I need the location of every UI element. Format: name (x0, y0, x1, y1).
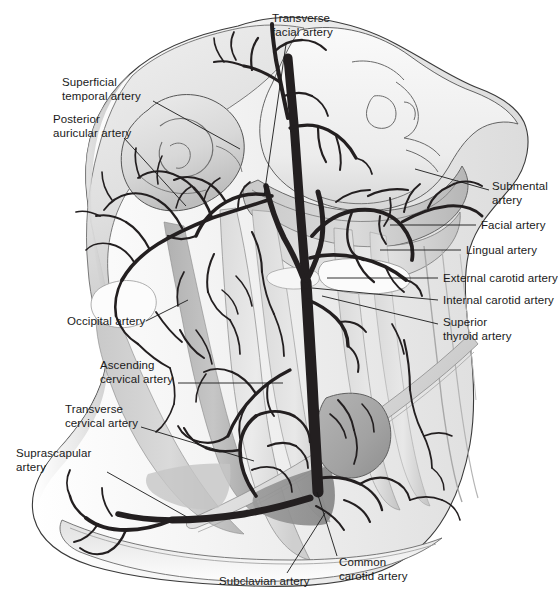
label-transverse-facial-artery: Transverse facial artery (272, 12, 333, 39)
label-submental-artery: Submental artery (492, 180, 548, 207)
label-lingual-artery: Lingual artery (466, 244, 537, 258)
thyroid-gland (316, 393, 391, 478)
label-external-carotid-artery: External carotid artery (443, 272, 558, 286)
label-internal-carotid-artery: Internal carotid artery (443, 294, 554, 308)
label-superior-thyroid-artery: Superior thyroid artery (443, 316, 512, 343)
label-facial-artery: Facial artery (481, 219, 546, 233)
label-common-carotid-artery: Common carotid artery (339, 556, 408, 583)
label-subclavian-artery: Subclavian artery (219, 575, 310, 589)
